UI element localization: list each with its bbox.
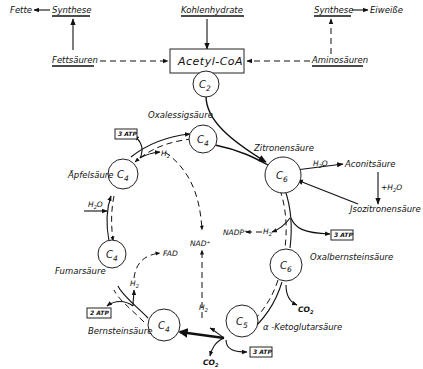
svg-text:C: C (276, 170, 283, 181)
arrow-isozitronen-to-zitronen (297, 180, 358, 204)
svg-text:5: 5 (243, 321, 248, 330)
svg-text:3 ATP: 3 ATP (118, 130, 137, 137)
arrow-apfel-h2 (140, 152, 160, 158)
atp-box-bottom-left: 2 ATP (87, 308, 111, 318)
label-co2-ketoglutar: CO2 (203, 358, 219, 368)
citric-acid-cycle-diagram: Fette Synthese Fettsäuren Kohlenhydrate … (0, 0, 423, 369)
svg-text:3 ATP: 3 ATP (253, 348, 272, 355)
arrow-bernstein-h2 (133, 290, 134, 306)
label-acetyl-coa: Acetyl-CoA (177, 55, 243, 68)
svg-text:C: C (197, 134, 204, 145)
line-bernstein-to-fumar-b (114, 290, 144, 322)
svg-text:3 ATP: 3 ATP (334, 231, 353, 238)
node-zitronensaeure: C 6 (265, 157, 301, 193)
label-h2o-aconit: H2O (313, 159, 328, 169)
svg-text:C: C (199, 79, 206, 90)
label-aconitsaeure: Aconitsäure (344, 159, 396, 169)
label-oxalbernsteinsaeure: Oxalbernsteinsäure (310, 252, 393, 262)
svg-text:6: 6 (287, 265, 292, 274)
svg-text:4: 4 (113, 254, 118, 263)
label-h2-keto: H2 (199, 303, 208, 313)
svg-text:6: 6 (283, 175, 288, 184)
label-bernsteinsaeure: Bernsteinsäure (88, 326, 152, 336)
label-fette: Fette (10, 5, 32, 15)
line-zitronen-to-oxalbernstein-b (280, 190, 286, 248)
line-fumar-to-apfel-a (107, 196, 111, 241)
label-h2-top: H2 (161, 149, 170, 159)
label-synthese-left: Synthese (52, 5, 91, 15)
svg-text:C: C (280, 260, 287, 271)
atp-box-bottom: 3 ATP (250, 347, 272, 357)
svg-text:C: C (236, 316, 243, 327)
label-apfelsaeure: Äpfelsäure (67, 170, 114, 180)
line-fumar-to-apfel-b (112, 196, 114, 241)
node-c2: C 2 (193, 71, 219, 97)
arrow-oxalbernstein-co2 (286, 285, 297, 305)
arrow-h2-to-fad (134, 253, 160, 278)
atp-box-top-left: 3 ATP (115, 129, 137, 139)
svg-text:C: C (106, 249, 113, 260)
label-kohlenhydrate: Kohlenhydrate (181, 5, 243, 15)
label-plus-h2o: +H2O (381, 183, 402, 193)
label-fad: FAD (163, 249, 178, 258)
label-h2-fumar: H2 (130, 279, 139, 289)
arrow-to-atp-bottom-left (107, 302, 133, 307)
line-zitronen-to-oxalbernstein-a (285, 190, 291, 248)
label-nadp: NADP⁺ (223, 228, 248, 237)
arrow-to-h2-nadp (272, 218, 290, 232)
label-aminosaeuren: Aminosäuren (311, 55, 368, 65)
node-ketoglutarsaeure: C 5 (226, 305, 258, 337)
node-fumarsaeure: C 4 (98, 240, 126, 268)
label-synthese-right: Synthese (314, 5, 353, 15)
label-co2-oxalbernstein: CO2 (298, 305, 314, 315)
arrow-to-atp-right (291, 218, 330, 234)
label-eiweisse: Eiweiße (370, 5, 403, 15)
atp-box-right: 3 ATP (331, 230, 353, 240)
label-isozitronensaeure: Jsozitronensäure (348, 204, 421, 214)
label-zitronensaeure: Zitronensäure (253, 143, 314, 153)
label-ketoglutarsaeure: α -Ketoglutarsäure (263, 322, 342, 332)
label-fettsaeuren: Fettsäuren (52, 55, 98, 65)
label-nad: NAD⁺ (190, 239, 211, 248)
node-bernsteinsaeure: C 4 (148, 309, 180, 341)
arrow-ketoglutar-atp (226, 340, 247, 352)
label-h2o-left: H2O (88, 200, 103, 210)
node-oxalessigsaeure: C 4 (189, 125, 217, 153)
arrow-ketoglutar-co2 (210, 338, 224, 356)
svg-text:4: 4 (204, 139, 209, 148)
svg-text:4: 4 (165, 325, 170, 334)
label-fumarsaeure: Fumarsäure (55, 266, 106, 276)
label-h2-nadp: H2 (263, 227, 272, 237)
svg-text:2 ATP: 2 ATP (90, 309, 109, 316)
svg-text:C: C (158, 320, 165, 331)
top-section: Fette Synthese Fettsäuren Kohlenhydrate … (10, 5, 403, 73)
svg-text:2: 2 (206, 84, 211, 93)
node-oxalbernsteinsaeure: C 6 (270, 249, 302, 281)
svg-text:4: 4 (124, 174, 129, 183)
label-oxalessigsaeure: Oxalessigsäure (148, 110, 213, 120)
svg-text:C: C (117, 169, 124, 180)
arrow-h2-to-nad-top (165, 152, 202, 230)
